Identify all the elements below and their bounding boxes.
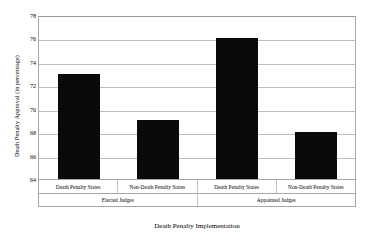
bar: [295, 132, 337, 179]
bar-slot: [197, 17, 276, 179]
y-axis-tick-label: 66: [18, 154, 36, 160]
y-axis-tick-label: 74: [18, 60, 36, 66]
bar-slot: [118, 17, 197, 179]
bar-slot: [39, 17, 118, 179]
category-label: Death Penalty States: [198, 180, 277, 193]
group-label: Appointed Judges: [198, 194, 356, 206]
bar: [137, 120, 179, 179]
bar: [216, 38, 258, 179]
y-axis-tick-label: 72: [18, 83, 36, 89]
bar-chart: Death Penalty Approval (in percentage) 6…: [0, 0, 369, 243]
y-axis-tick-label: 64: [18, 177, 36, 183]
category-label: Non-Death Penalty States: [277, 180, 355, 193]
bars-group: [39, 17, 355, 179]
category-label: Death Penalty States: [39, 180, 118, 193]
group-label: Elected Judges: [39, 194, 198, 206]
y-axis-tick-label: 78: [18, 13, 36, 19]
bar-slot: [276, 17, 355, 179]
y-axis-tick-label: 70: [18, 107, 36, 113]
category-label: Non-Death Penalty States: [118, 180, 197, 193]
category-label-band: Death Penalty StatesNon-Death Penalty St…: [38, 180, 356, 194]
y-axis-tick-label: 68: [18, 130, 36, 136]
plot-area: [38, 16, 356, 180]
y-axis-tick-label: 76: [18, 36, 36, 42]
bar: [58, 74, 100, 179]
group-label-band: Elected JudgesAppointed Judges: [38, 194, 356, 207]
y-axis-tick-labels: 6466687072747678: [18, 16, 36, 180]
x-axis-title: Death Penalty Implementation: [38, 222, 356, 230]
